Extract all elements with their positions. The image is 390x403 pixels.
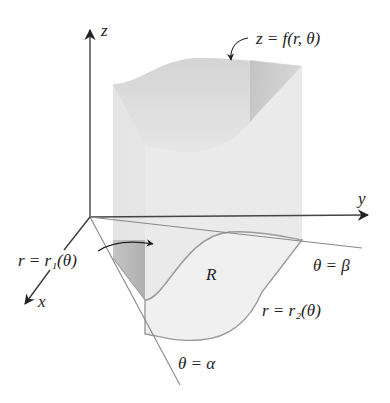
diagram-canvas <box>0 0 390 403</box>
ray-alpha-label: θ = α <box>178 355 215 372</box>
x-axis <box>64 217 90 250</box>
surface-label: z = f(r, θ) <box>256 30 320 47</box>
polar-solid-diagram: z y x z = f(r, θ) r = r₁(θ) r = r₂(θ) R … <box>0 0 390 403</box>
surface-pointer-arrow <box>231 38 248 60</box>
x-axis-label: x <box>38 293 46 310</box>
region-label: R <box>206 266 216 283</box>
z-axis-label: z <box>101 22 108 39</box>
outer-curve-label: r = r₂(θ) <box>262 302 321 319</box>
y-axis-label: y <box>358 190 366 207</box>
inner-curve-label: r = r₁(θ) <box>18 252 77 269</box>
ray-beta-label: θ = β <box>313 257 350 274</box>
